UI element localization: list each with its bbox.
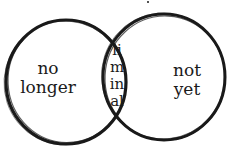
intersection-label-line: al <box>92 93 142 110</box>
intersection-label-line: in <box>92 76 142 93</box>
right-label-line: not <box>152 61 222 80</box>
left-label-line: longer <box>10 78 86 97</box>
intersection-label: li m in al <box>92 42 142 110</box>
intersection-label-line: li <box>92 42 142 59</box>
left-label-line: no <box>10 59 86 78</box>
right-label-line: yet <box>152 80 222 99</box>
right-circle-label: not yet <box>152 61 222 99</box>
left-circle-label: no longer <box>10 59 86 97</box>
intersection-label-line: m <box>92 59 142 76</box>
